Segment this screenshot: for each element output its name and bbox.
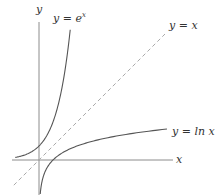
- logarithm-curve: [40, 129, 167, 194]
- axes: [12, 22, 173, 195]
- log-curve-label: y = ln x: [172, 126, 215, 137]
- x-axis-label: x: [176, 154, 182, 165]
- y-axis-label: y: [36, 4, 42, 15]
- exp-curve-label-text: y = e: [53, 12, 82, 25]
- exp-curve-label-exponent: x: [82, 11, 86, 19]
- identity-line-label: y = x: [169, 20, 198, 31]
- identity-line: [14, 34, 165, 185]
- exponential-curve: [15, 30, 70, 158]
- exp-curve-label: y = ex: [53, 12, 86, 24]
